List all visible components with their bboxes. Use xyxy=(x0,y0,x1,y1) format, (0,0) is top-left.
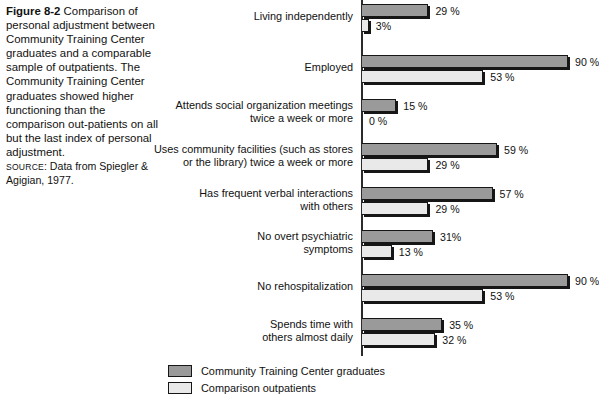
category-label: Spends time withothers almost daily xyxy=(53,318,353,344)
bar-value-label: 15 % xyxy=(403,100,427,113)
category-label-line: or the library) twice a week or more xyxy=(53,156,353,169)
category-label-line: Has frequent verbal interactions xyxy=(53,187,353,200)
category-label-line: with others xyxy=(53,200,353,213)
bar xyxy=(362,202,428,215)
category-label: Uses community facilities (such as store… xyxy=(53,143,353,169)
bar xyxy=(362,230,433,243)
bar xyxy=(362,289,483,302)
bar-value-label: 59 % xyxy=(504,144,528,157)
bar-value-label: 13 % xyxy=(399,246,423,259)
bar xyxy=(362,333,435,346)
bar xyxy=(362,187,493,200)
legend-swatch xyxy=(168,365,192,377)
bar xyxy=(362,99,396,112)
bar-value-label: 29 % xyxy=(435,159,459,172)
legend-label: Comparison outpatients xyxy=(201,382,316,394)
bar xyxy=(362,19,369,32)
category-label-line: twice a week or more xyxy=(53,112,353,125)
legend-swatch xyxy=(168,382,192,394)
category-label: Attends social organization meetingstwic… xyxy=(53,99,353,125)
category-label: No overt psychiatricsymptoms xyxy=(53,230,353,256)
category-label: Employed xyxy=(53,61,353,74)
bar xyxy=(362,158,428,171)
bar-chart: Living independently29 %3%Employed90 %53… xyxy=(0,0,599,356)
bar-value-label: 53 % xyxy=(490,290,514,303)
bar xyxy=(362,245,392,258)
value-axis-line xyxy=(361,0,363,356)
bar-value-label: 35 % xyxy=(449,319,473,332)
bar xyxy=(362,55,568,68)
bar-value-label: 53 % xyxy=(490,71,514,84)
bar-value-label: 90 % xyxy=(575,56,599,69)
category-label-line: No overt psychiatric xyxy=(53,230,353,243)
legend-item: Comparison outpatients xyxy=(168,379,385,396)
category-label-line: Employed xyxy=(53,61,353,74)
bar-value-label: 29 % xyxy=(435,5,459,18)
category-label-line: No rehospitalization xyxy=(53,280,353,293)
bar-value-label: 31% xyxy=(440,231,461,244)
category-label-line: Uses community facilities (such as store… xyxy=(53,143,353,156)
bar xyxy=(362,274,568,287)
bar xyxy=(362,318,442,331)
bar xyxy=(362,70,483,83)
bar xyxy=(362,4,428,17)
category-label-line: others almost daily xyxy=(53,331,353,344)
bar-value-label: 57 % xyxy=(500,188,524,201)
bar-value-label: 0 % xyxy=(369,115,387,128)
bar-value-label: 32 % xyxy=(442,334,466,347)
category-label: Living independently xyxy=(53,10,353,23)
legend-label: Community Training Center graduates xyxy=(201,365,385,377)
chart-legend: Community Training Center graduatesCompa… xyxy=(168,362,385,396)
category-label-line: symptoms xyxy=(53,243,353,256)
legend-item: Community Training Center graduates xyxy=(168,362,385,379)
category-label-line: Living independently xyxy=(53,10,353,23)
bar-value-label: 3% xyxy=(376,20,391,33)
bar-value-label: 90 % xyxy=(575,275,599,288)
bar xyxy=(362,143,497,156)
category-label: No rehospitalization xyxy=(53,280,353,293)
category-label-line: Attends social organization meetings xyxy=(53,99,353,112)
bar-value-label: 29 % xyxy=(435,203,459,216)
category-label-line: Spends time with xyxy=(53,318,353,331)
category-label: Has frequent verbal interactionswith oth… xyxy=(53,187,353,213)
